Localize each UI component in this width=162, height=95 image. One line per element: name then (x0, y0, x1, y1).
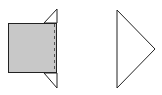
gray-square (9, 24, 57, 73)
bottom-flap-triangle (44, 73, 57, 88)
top-flap-triangle (44, 9, 57, 23)
large-triangle (117, 10, 155, 88)
diagram-canvas (0, 0, 162, 95)
